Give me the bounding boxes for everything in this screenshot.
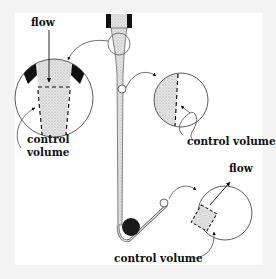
sphere bbox=[122, 218, 140, 236]
flow-label-bottom: flow bbox=[229, 162, 254, 174]
inset-circle-nozzle-exit bbox=[15, 55, 93, 140]
leader-wake-to-inset bbox=[169, 186, 196, 199]
control-volume-left-line2: volume bbox=[26, 146, 70, 158]
inset-circle-sphere-wake bbox=[191, 182, 252, 240]
leader-nozzle-to-inset bbox=[68, 40, 108, 60]
stream-marker-circle bbox=[118, 85, 126, 93]
wake-marker-circle bbox=[160, 199, 168, 207]
fluid-control-volume-diagram: flow control volume control volume flow … bbox=[0, 0, 276, 279]
control-volume-bottom: control volume bbox=[114, 252, 203, 264]
control-volume-right: control volume bbox=[187, 135, 276, 147]
flow-arrow-diagonal bbox=[210, 182, 230, 205]
liquid-jet-stream bbox=[111, 28, 167, 241]
leader-right-arrowhead bbox=[181, 106, 190, 113]
leader-stream-to-inset bbox=[126, 72, 156, 88]
control-volume-left-line1: control bbox=[27, 133, 69, 145]
inset-circle-stream-side bbox=[150, 70, 208, 130]
flow-label-top: flow bbox=[31, 16, 56, 28]
nozzle bbox=[106, 14, 132, 28]
